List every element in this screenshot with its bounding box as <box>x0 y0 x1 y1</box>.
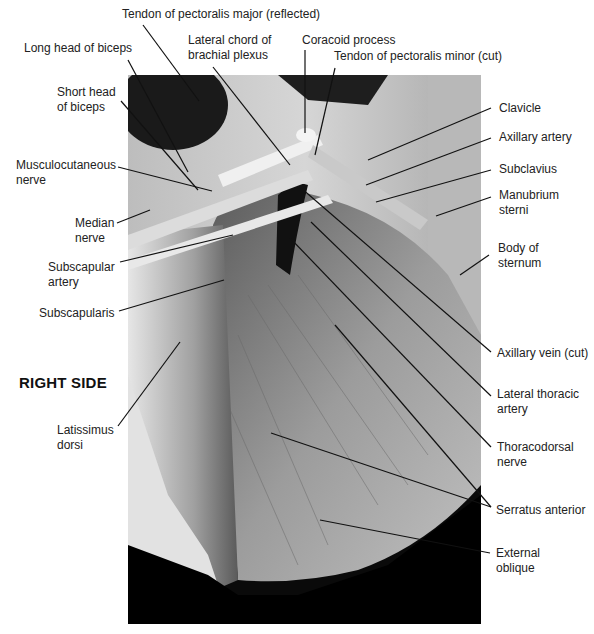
label-lateral-chord-line2: brachial plexus <box>188 47 268 63</box>
label-median-nerve-line2: nerve <box>75 230 105 246</box>
label-body-sternum-line1: Body of <box>498 240 539 256</box>
label-external-oblique-line1: External <box>496 545 540 561</box>
label-axillary-vein: Axillary vein (cut) <box>497 345 588 361</box>
label-manubrium-line1: Manubrium <box>499 187 559 203</box>
label-thoracodorsal-line2: nerve <box>497 454 527 470</box>
label-axillary-artery: Axillary artery <box>499 129 572 145</box>
label-musculocutaneous-line2: nerve <box>16 172 46 188</box>
label-short-head-biceps-line1: Short head <box>57 84 116 100</box>
label-subscapular-artery-line1: Subscapular <box>48 259 115 275</box>
label-thoracodorsal-line1: Thoracodorsal <box>497 439 574 455</box>
label-subscapular-artery-line2: artery <box>48 274 79 290</box>
label-external-oblique-line2: oblique <box>496 560 535 576</box>
label-latissimus-line1: Latissimus <box>57 422 114 438</box>
dissection-illustration <box>128 75 481 624</box>
label-long-head-biceps: Long head of biceps <box>24 40 132 56</box>
label-subscapularis: Subscapularis <box>39 305 114 321</box>
label-musculocutaneous-line1: Musculocutaneous <box>16 157 116 173</box>
label-lateral-thoracic-line2: artery <box>497 401 528 417</box>
label-median-nerve-line1: Median <box>75 215 114 231</box>
label-short-head-biceps-line2: of biceps <box>57 99 105 115</box>
dissection-photo <box>128 75 481 624</box>
label-coracoid-process: Coracoid process <box>302 32 395 48</box>
label-tendon-pectoralis-minor: Tendon of pectoralis minor (cut) <box>334 48 502 64</box>
label-lateral-chord-line1: Lateral chord of <box>188 32 271 48</box>
label-tendon-pectoralis-major: Tendon of pectoralis major (reflected) <box>122 6 320 22</box>
label-lateral-thoracic-line1: Lateral thoracic <box>497 386 579 402</box>
label-serratus-anterior: Serratus anterior <box>496 502 585 518</box>
label-body-sternum-line2: sternum <box>498 255 541 271</box>
label-manubrium-line2: sterni <box>499 202 528 218</box>
label-latissimus-line2: dorsi <box>57 437 83 453</box>
label-subclavius: Subclavius <box>499 161 557 177</box>
side-title: RIGHT SIDE <box>19 374 107 391</box>
label-clavicle: Clavicle <box>499 100 541 116</box>
